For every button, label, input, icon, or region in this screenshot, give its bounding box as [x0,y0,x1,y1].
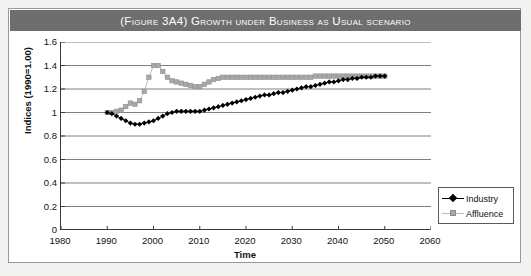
data-point-industry [211,105,216,110]
x-tick-label: 2000 [130,235,176,246]
x-tick-label: 1980 [37,235,83,246]
data-point-industry [188,109,193,114]
chart-title: (Figure 3A4) Growth under Business as Us… [120,15,411,27]
data-point-affluence [198,84,202,88]
data-point-industry [257,93,262,98]
y-tick-label: 1 [52,108,57,118]
data-point-industry [243,97,248,102]
data-point-affluence [239,75,243,79]
data-point-industry [271,91,276,96]
data-point-affluence [332,74,336,78]
data-point-industry [280,90,285,95]
data-point-affluence [235,75,239,79]
plot-area [60,42,430,230]
data-point-affluence [225,75,229,79]
data-point-industry [248,96,253,101]
data-point-industry [317,82,322,87]
data-point-affluence [119,108,123,112]
data-point-industry [304,84,309,89]
data-point-industry [156,116,161,121]
data-point-affluence [165,75,169,79]
x-tick-label: 2040 [315,235,361,246]
data-point-industry [308,84,313,89]
data-point-industry [179,109,184,114]
data-point-affluence [248,75,252,79]
data-point-affluence [230,75,234,79]
data-point-industry [193,109,198,114]
data-point-affluence [202,82,206,86]
data-point-affluence [285,75,289,79]
data-point-affluence [244,75,248,79]
y-tick-label: 1.6 [44,37,57,47]
data-point-affluence [142,89,146,93]
data-point-industry [220,103,225,108]
data-point-industry [262,92,267,97]
data-point-affluence [221,75,225,79]
data-point-affluence [156,63,160,67]
chart-title-bar: (Figure 3A4) Growth under Business as Us… [10,10,521,31]
data-point-industry [142,120,147,125]
data-point-industry [132,122,137,127]
data-point-affluence [170,79,174,83]
y-tick-label: 0.2 [44,202,57,212]
data-point-industry [290,88,295,93]
data-point-affluence [299,75,303,79]
data-point-industry [206,106,211,111]
data-point-industry [225,102,230,107]
data-point-affluence [151,63,155,67]
data-point-industry [151,118,156,123]
data-point-industry [253,95,258,100]
y-axis-tick-labels: 00.20.40.60.811.21.41.6 [23,42,57,230]
legend-item-industry[interactable]: Industry [442,191,510,206]
x-axis-title: Time [60,249,430,260]
data-point-affluence [114,109,118,113]
data-point-affluence [207,80,211,84]
data-point-affluence [327,74,331,78]
data-point-affluence [133,102,137,106]
data-point-industry [327,79,332,84]
data-point-affluence [322,74,326,78]
legend-item-affluence[interactable]: Affluence [442,206,510,221]
data-point-industry [276,90,281,95]
data-point-affluence [258,75,262,79]
data-point-industry [230,101,235,106]
data-point-industry [336,78,341,83]
diamond-marker-icon [449,194,457,202]
y-tick-label: 1.2 [44,84,57,94]
x-tick-label: 2030 [268,235,314,246]
data-point-affluence [290,75,294,79]
x-tick-label: 2050 [361,235,407,246]
data-point-affluence [253,75,257,79]
data-point-affluence [188,83,192,87]
data-point-affluence [137,99,141,103]
data-point-affluence [313,74,317,78]
chart-legend: Industry Affluence [438,187,514,224]
x-tick-label: 2010 [176,235,222,246]
data-point-affluence [179,81,183,85]
data-point-industry [165,111,170,116]
data-point-industry [313,83,318,88]
x-tick-label: 1990 [83,235,129,246]
data-point-industry [202,108,207,113]
x-tick-label: 2060 [407,235,453,246]
data-point-affluence [147,75,151,79]
y-tick-label: 1.4 [44,61,57,71]
data-point-industry [285,89,290,94]
figure-container: (Figure 3A4) Growth under Business as Us… [0,0,531,276]
data-point-industry [123,118,128,123]
chart-frame: (Figure 3A4) Growth under Business as Us… [8,8,521,263]
data-point-industry [322,81,327,86]
y-tick-label: 0 [52,225,57,235]
data-point-affluence [276,75,280,79]
data-point-affluence [124,104,128,108]
data-point-affluence [193,84,197,88]
data-point-industry [114,113,119,118]
data-point-industry [234,99,239,104]
data-point-industry [299,85,304,90]
y-tick-label: 0.6 [44,155,57,165]
legend-label-industry: Industry [464,194,498,204]
legend-swatch-industry [442,193,464,204]
data-point-industry [146,119,151,124]
data-point-affluence [174,80,178,84]
data-point-affluence [304,75,308,79]
